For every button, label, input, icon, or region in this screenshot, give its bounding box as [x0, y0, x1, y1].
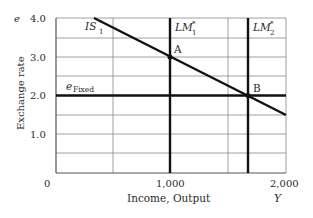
svg-text:*: *	[99, 19, 103, 27]
x-axis-symbol: Y	[274, 192, 282, 204]
svg-text:Fixed: Fixed	[73, 85, 94, 94]
e-fixed-label: e Fixed	[66, 80, 94, 94]
point-b-label: B	[253, 82, 261, 94]
y-tick-2: 2.0	[30, 90, 46, 101]
svg-text:1: 1	[99, 28, 103, 36]
svg-text:LM: LM	[174, 21, 193, 33]
y-tick-1: 1.0	[30, 129, 46, 140]
svg-text:2: 2	[270, 29, 274, 37]
svg-text:IS: IS	[84, 20, 96, 32]
point-a-label: A	[173, 43, 182, 55]
svg-text:*: *	[192, 20, 196, 28]
svg-text:*: *	[270, 20, 274, 28]
y-tick-4: 4.0	[30, 13, 46, 24]
is1-label: IS * 1	[84, 19, 103, 36]
y-axis-label: Exchange rate	[15, 56, 26, 130]
y-axis-symbol: e	[14, 13, 20, 24]
x-tick-1000: 1,000	[156, 178, 185, 189]
lm2-label: LM * 2	[252, 20, 274, 37]
chart: 4.0 3.0 2.0 1.0 e Exchange rate 0 1,000 …	[0, 0, 313, 218]
x-axis-label: Income, Output	[127, 192, 211, 204]
x-tick-0: 0	[44, 178, 50, 189]
svg-text:e: e	[66, 80, 72, 92]
point-b-marker	[246, 93, 251, 98]
x-tick-2000: 2,000	[270, 178, 299, 189]
svg-text:1: 1	[192, 29, 196, 37]
lm1-label: LM * 1	[174, 20, 196, 37]
point-a-marker	[168, 55, 173, 60]
y-tick-3: 3.0	[30, 52, 46, 63]
svg-text:LM: LM	[252, 21, 271, 33]
